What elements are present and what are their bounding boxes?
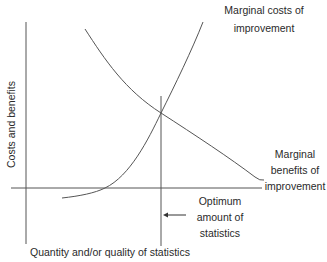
marginal-benefits-label-line2: benefits of <box>262 162 327 178</box>
arrowhead-icon <box>163 213 168 218</box>
marginal-costs-label-line1: Marginal costs of <box>204 3 324 18</box>
y-axis-label: Costs and benefits <box>5 81 17 168</box>
x-axis-label: Quantity and/or quality of statistics <box>30 245 190 260</box>
optimum-label-line2: amount of <box>190 209 250 225</box>
optimum-label: Optimum amount of statistics <box>190 193 250 241</box>
marginal-costs-label: Marginal costs of improvement <box>204 3 324 36</box>
marginal-costs-label-line2: improvement <box>204 21 324 36</box>
marginal-benefits-label-line1: Marginal <box>262 146 327 162</box>
marginal-costs-curve <box>62 22 203 198</box>
marginal-benefits-label: Marginal benefits of improvement <box>262 146 327 194</box>
optimum-label-line3: statistics <box>190 225 250 241</box>
marginal-benefits-curve <box>85 29 264 180</box>
marginal-benefits-label-line3: improvement <box>262 178 327 194</box>
cost-benefit-diagram <box>0 0 327 262</box>
optimum-label-line1: Optimum <box>190 193 250 209</box>
